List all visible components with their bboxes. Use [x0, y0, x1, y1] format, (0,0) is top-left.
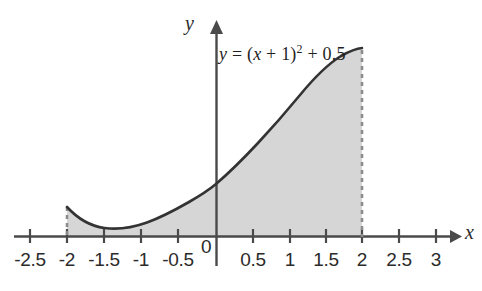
y-axis-label: y	[185, 12, 194, 35]
x-tick-label--1: -1	[126, 249, 156, 271]
x-axis-arrow-icon	[450, 230, 462, 243]
equation-plus-one: + 1	[266, 44, 290, 64]
x-tick-label--0.5: -0.5	[156, 249, 200, 271]
x-tick-label-0.5: 0.5	[231, 249, 275, 271]
equation-lhs: y	[219, 44, 227, 64]
x-tick-label--1.5: -1.5	[82, 249, 126, 271]
x-axis-label: x	[465, 221, 474, 244]
origin-label: 0	[201, 236, 212, 258]
equation-exponent: 2	[297, 42, 303, 56]
y-axis-arrow-icon	[210, 20, 223, 34]
equation-tail: + 0.5	[307, 44, 345, 64]
x-tick-label-1: 1	[275, 249, 305, 271]
x-tick-label-3: 3	[421, 249, 451, 271]
x-tick-label--2: -2	[52, 249, 82, 271]
graph-figure: -2.5 -2 -1.5 -1 -0.5 0.5 1 1.5 2 2.5 3 0…	[0, 0, 482, 291]
x-tick-label--2.5: -2.5	[8, 249, 52, 271]
equation-annotation: y = (x + 1)2 + 0.5	[219, 42, 346, 65]
x-tick-label-1.5: 1.5	[304, 249, 348, 271]
x-tick-label-2: 2	[347, 249, 377, 271]
x-tick-label-2.5: 2.5	[377, 249, 421, 271]
equation-equals: =	[232, 44, 242, 64]
equation-variable: x	[253, 44, 261, 64]
